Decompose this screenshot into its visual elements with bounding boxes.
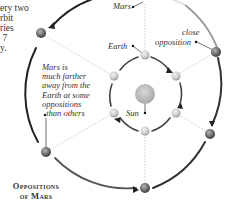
sun [135, 84, 155, 104]
diagram-title: Oppositions of Mars [3, 181, 69, 201]
label-close: close [182, 28, 199, 37]
note-text: Mars is much farther away from the Earth… [42, 63, 102, 118]
label-earth: Earth [108, 42, 127, 51]
label-mars: Mars [113, 2, 131, 11]
label-sun: Sun [126, 109, 139, 118]
label-opposition: opposition [155, 38, 191, 47]
intro-text: ery two rbit ries 7 y. [0, 3, 40, 53]
